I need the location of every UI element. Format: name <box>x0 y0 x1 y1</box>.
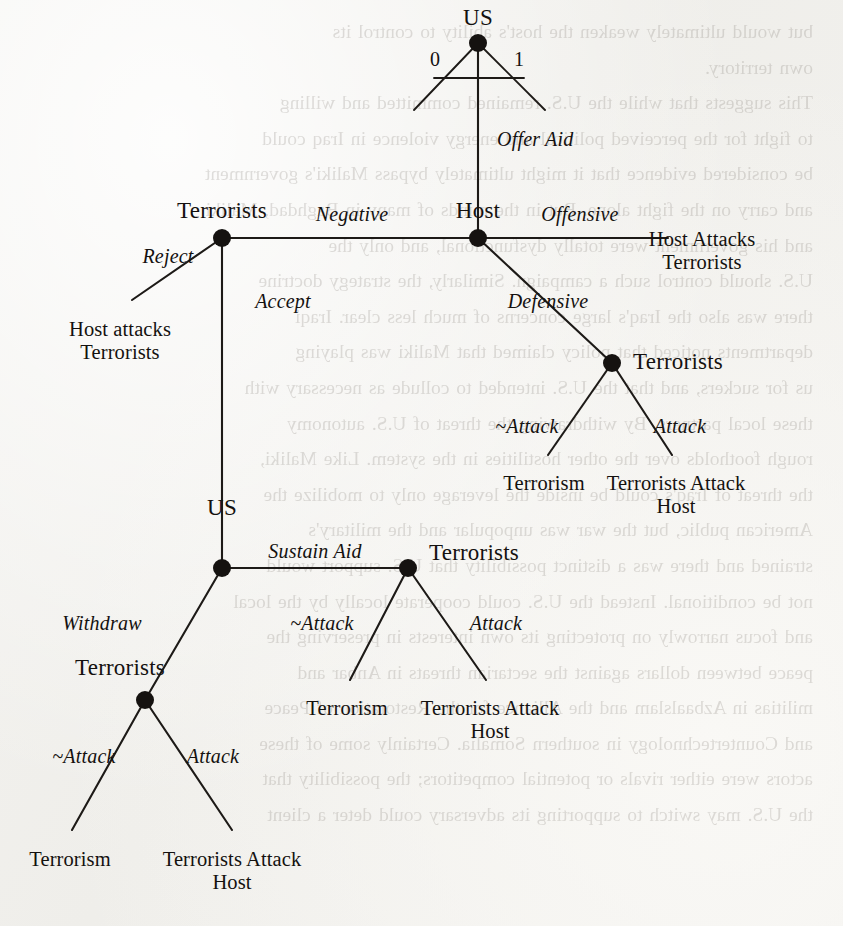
node-terrorists-bottom <box>136 691 154 709</box>
edge-b-not-attack <box>72 700 145 830</box>
node-terrorists-right <box>603 354 621 372</box>
edge-m-not-attack <box>350 568 408 680</box>
node-root-us <box>469 34 487 52</box>
node-host <box>469 229 487 247</box>
edge-b-attack <box>145 700 232 830</box>
game-tree-graphic <box>0 0 843 926</box>
node-terrorists-left <box>213 229 231 247</box>
edge-r-not-attack <box>548 363 612 455</box>
edge-r-attack <box>612 363 672 455</box>
scanned-page: but would ultimately weaken the host's a… <box>0 0 843 926</box>
edge-m-attack <box>408 568 486 680</box>
node-terrorists-mid <box>399 559 417 577</box>
root-chance-fan <box>414 43 545 110</box>
edge-reject <box>132 238 222 300</box>
edge-withdraw <box>145 568 222 700</box>
node-us-lower <box>213 559 231 577</box>
edge-defensive <box>478 238 612 363</box>
